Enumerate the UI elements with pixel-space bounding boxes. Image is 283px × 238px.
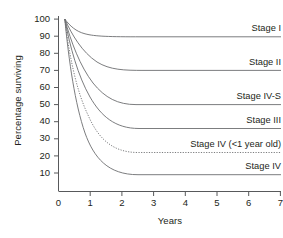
curve-label-stage-1: Stage I <box>252 23 281 33</box>
curve-label-stage-3: Stage III <box>246 115 281 125</box>
x-tick-label-7: 7 <box>273 197 283 208</box>
x-tick-label-6: 6 <box>242 197 256 208</box>
x-tick-label-4: 4 <box>178 197 192 208</box>
y-tick-label-80: 80 <box>26 47 50 58</box>
y-tick-label-90: 90 <box>26 30 50 41</box>
y-tick-label-30: 30 <box>26 132 50 143</box>
curve-label-stage-4s: Stage IV-S <box>237 91 281 101</box>
x-axis-title: Years <box>60 215 280 226</box>
survival-curve-figure: 100 90 80 70 60 50 40 30 20 10 0 1 2 3 4… <box>0 0 283 238</box>
y-tick-label-70: 70 <box>26 64 50 75</box>
y-axis-title: Percentage surviving <box>12 51 23 151</box>
curve-label-stage-4: Stage IV <box>245 161 281 171</box>
y-tick-marks <box>54 19 59 173</box>
y-tick-label-100: 100 <box>26 13 50 24</box>
x-tick-label-2: 2 <box>115 197 129 208</box>
x-tick-label-5: 5 <box>210 197 224 208</box>
y-tick-label-60: 60 <box>26 81 50 92</box>
curve-label-stage-2: Stage II <box>249 57 281 67</box>
curve-label-stage-4-infant: Stage IV (<1 year old) <box>190 139 281 149</box>
y-tick-label-20: 20 <box>26 150 50 161</box>
y-tick-label-40: 40 <box>26 115 50 126</box>
x-tick-marks <box>90 192 280 197</box>
x-tick-label-3: 3 <box>147 197 161 208</box>
x-tick-label-0: 0 <box>52 197 66 208</box>
curve-stage-4-infant <box>65 19 281 152</box>
curve-stage-1 <box>65 19 281 37</box>
y-tick-label-50: 50 <box>26 98 50 109</box>
y-tick-label-10: 10 <box>26 167 50 178</box>
x-tick-label-1: 1 <box>83 197 97 208</box>
